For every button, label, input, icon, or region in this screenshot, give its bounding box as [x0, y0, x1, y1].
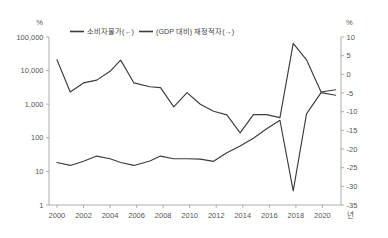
- x-axis-tick-label: 2016: [261, 211, 278, 220]
- series-line-2: [57, 93, 336, 191]
- right-axis-tick-label: -15: [347, 126, 358, 135]
- x-axis-label: 년: [347, 210, 354, 220]
- right-axis-tick-label: 0: [347, 70, 351, 79]
- left-axis-tick-label: 10: [35, 167, 43, 176]
- x-axis-tick-label: 2012: [208, 211, 225, 220]
- left-axis-unit: %: [36, 18, 43, 27]
- chart-container: %100,00010,0001,000100101%1050-5-10-15-2…: [0, 0, 388, 238]
- left-axis-tick-label: 1,000: [25, 100, 44, 109]
- x-axis-tick-label: 2002: [75, 211, 92, 220]
- x-axis-tick-label: 2010: [181, 211, 198, 220]
- line-chart: %100,00010,0001,000100101%1050-5-10-15-2…: [0, 0, 388, 238]
- right-axis-tick-label: -10: [347, 107, 358, 116]
- right-axis-tick-label: -25: [347, 163, 358, 172]
- left-axis-tick-label: 100,000: [16, 33, 43, 42]
- left-axis-tick-label: 100: [31, 133, 44, 142]
- x-axis-tick-label: 2000: [49, 211, 66, 220]
- right-axis-tick-label: 10: [347, 33, 355, 42]
- x-axis-tick-label: 2004: [102, 211, 119, 220]
- x-axis-tick-label: 2008: [155, 211, 172, 220]
- left-axis-tick-label: 10,000: [21, 66, 44, 75]
- right-axis-tick-label: -5: [347, 89, 354, 98]
- right-axis-tick-label: -30: [347, 182, 358, 191]
- x-axis-tick-label: 2006: [128, 211, 145, 220]
- right-axis-tick-label: -20: [347, 145, 358, 154]
- right-axis-tick-label: -35: [347, 201, 358, 210]
- right-axis-tick-label: 5: [347, 51, 351, 60]
- x-axis-tick-label: 2020: [314, 211, 331, 220]
- left-axis-tick-label: 1: [39, 201, 43, 210]
- legend-label-1: 소비자물가(←): [87, 27, 134, 36]
- legend-label-2: (GDP 대비) 재정적자(→): [156, 27, 234, 36]
- x-axis-tick-label: 2014: [234, 211, 251, 220]
- series-line-1: [57, 43, 336, 133]
- x-axis-tick-label: 2018: [288, 211, 305, 220]
- right-axis-unit: %: [346, 18, 353, 27]
